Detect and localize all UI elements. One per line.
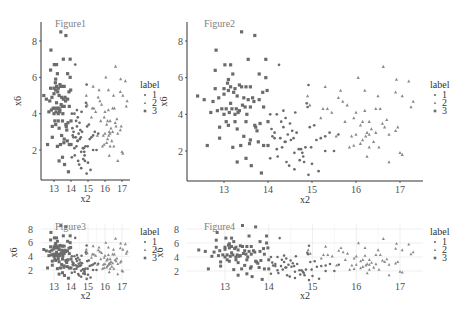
square-marker [66, 72, 69, 75]
circle-marker [298, 269, 301, 272]
square-marker [62, 141, 65, 144]
x-tick-label: 14 [66, 183, 76, 194]
square-marker [69, 143, 72, 146]
triangle-marker [343, 120, 346, 123]
square-marker [216, 109, 219, 112]
square-marker [69, 234, 72, 237]
circle-marker [273, 131, 276, 134]
triangle-marker [308, 103, 311, 106]
circle-marker [270, 128, 273, 131]
square-marker [214, 87, 217, 90]
x-tick-label: 13 [219, 184, 229, 195]
circle-marker [291, 129, 294, 132]
triangle-marker [352, 144, 355, 147]
circle-marker [270, 256, 273, 259]
square-marker [56, 90, 59, 93]
square-marker [265, 242, 268, 245]
square-marker [61, 112, 64, 115]
circle-marker [80, 254, 83, 257]
square-marker [228, 260, 231, 263]
square-marker [239, 254, 242, 257]
circle-marker [72, 262, 75, 265]
square-marker [70, 258, 73, 261]
circle-marker [434, 241, 436, 243]
square-marker [219, 260, 222, 263]
triangle-marker [374, 131, 377, 134]
triangle-marker [326, 253, 329, 256]
square-marker [62, 234, 65, 237]
circle-marker [85, 278, 88, 281]
circle-marker [89, 169, 92, 172]
square-marker [251, 96, 254, 99]
circle-marker [289, 259, 292, 262]
circle-marker [313, 124, 316, 127]
square-marker [233, 113, 236, 116]
square-marker [226, 82, 229, 85]
x-tick-label: 17 [117, 281, 127, 292]
triangle-marker [103, 143, 106, 146]
square-marker [245, 245, 248, 248]
square-marker [249, 105, 252, 108]
figure3-panel: 13141516172468x2x6Figure3label123 [8, 221, 160, 301]
y-tick-label: 2 [178, 146, 183, 157]
square-marker [259, 259, 262, 262]
triangle-marker [124, 79, 127, 82]
circle-marker [303, 274, 306, 277]
square-marker [222, 93, 225, 96]
square-marker [45, 98, 48, 101]
square-marker [254, 260, 257, 263]
square-marker [227, 78, 230, 81]
triangle-marker [106, 119, 109, 122]
circle-marker [95, 149, 98, 152]
triangle-marker [107, 108, 110, 111]
circle-marker [296, 263, 299, 266]
triangle-marker [407, 80, 410, 83]
square-marker [49, 68, 52, 71]
square-marker [217, 254, 220, 257]
square-marker [56, 267, 59, 270]
square-marker [219, 265, 222, 268]
circle-marker [295, 131, 298, 134]
square-marker [247, 58, 250, 61]
triangle-marker [104, 76, 107, 79]
circle-marker [76, 109, 79, 112]
circle-marker [275, 148, 278, 151]
triangle-marker [97, 88, 100, 91]
circle-marker [286, 133, 289, 136]
circle-marker [333, 270, 336, 273]
triangle-marker [366, 262, 369, 265]
triangle-marker [331, 255, 334, 258]
circle-marker [74, 63, 77, 66]
circle-marker [74, 237, 77, 240]
square-marker [264, 58, 267, 61]
square-marker [251, 275, 254, 278]
circle-marker [85, 244, 88, 247]
circle-marker [301, 151, 304, 154]
square-marker [63, 105, 66, 108]
circle-marker [92, 269, 95, 272]
circle-marker [324, 135, 327, 138]
square-marker [253, 251, 256, 254]
legend-item-label: 3 [442, 105, 447, 116]
square-marker [230, 237, 233, 240]
square-marker [209, 111, 212, 114]
square-marker [230, 245, 233, 248]
circle-marker [309, 261, 312, 264]
square-marker [220, 107, 223, 110]
triangle-marker [363, 89, 366, 92]
triangle-marker [111, 130, 114, 133]
square-marker [218, 137, 221, 140]
square-marker [49, 238, 52, 241]
y-tick-label: 6 [32, 72, 37, 83]
square-marker [229, 85, 232, 88]
square-marker [61, 271, 64, 274]
square-marker [231, 146, 234, 149]
y-axis-title: x6 [8, 248, 19, 258]
square-marker [245, 253, 248, 256]
square-marker [215, 246, 218, 249]
triangle-marker [319, 116, 322, 119]
circle-marker [283, 261, 286, 264]
circle-marker [70, 112, 73, 115]
x-tick-label: 13 [220, 281, 230, 292]
triangle-marker [352, 116, 355, 119]
